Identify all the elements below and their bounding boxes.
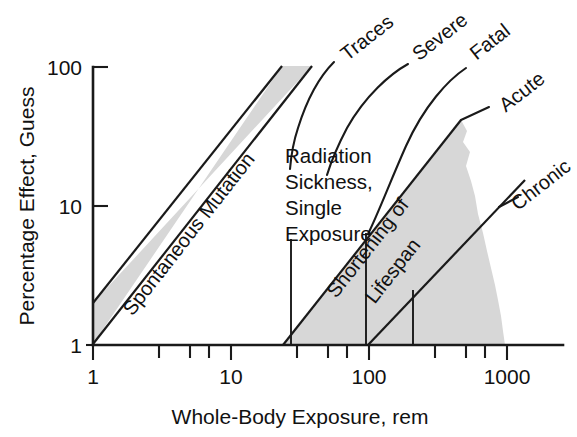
x-tick-label-1: 1 [87,365,99,388]
x-tick-label-10: 10 [219,365,242,388]
callout-radiation-sickness-line1: Radiation [285,144,372,167]
callout-radiation-sickness-line3: Single [285,196,342,219]
band-spontaneous-mutation-upper-edge [93,66,282,303]
radiation-effect-chart: 100 10 1 1 10 100 1000 Whole-Body Exposu… [0,0,577,437]
y-tick-label-10: 10 [59,195,82,218]
callout-label-traces: Traces [336,10,397,65]
y-tick-label-100: 100 [47,56,82,79]
chart-canvas: 100 10 1 1 10 100 1000 Whole-Body Exposu… [0,0,577,437]
x-axis-title: Whole-Body Exposure, rem [172,405,429,428]
y-axis-title: Percentage Effect, Guess [15,87,38,326]
callout-label-chronic: Chronic [507,155,575,215]
callout-label-severe: Severe [408,8,471,64]
callout-radiation-sickness-line4: Exposure [285,222,372,245]
callout-radiation-sickness-line2: Sickness, [285,170,373,193]
x-tick-label-100: 100 [351,365,386,388]
callout-label-acute: Acute [495,67,549,116]
y-tick-label-1: 1 [70,334,82,357]
band-label-spontaneous-mutation: Spontaneous Mutation [118,148,259,319]
callout-label-fatal: Fatal [465,19,514,64]
leader-line-acute [461,107,489,120]
x-tick-label-1000: 1000 [484,365,531,388]
callout-radiation-sickness: Radiation Sickness, Single Exposure [285,144,373,245]
